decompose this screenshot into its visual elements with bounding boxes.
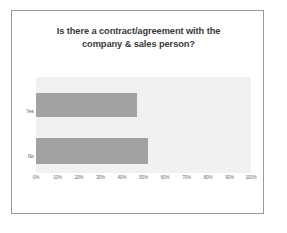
x-tick-label: 0% [33, 175, 39, 180]
x-tick-label: 10% [53, 175, 62, 180]
x-tick-label: 60% [161, 175, 170, 180]
bar-yes [36, 93, 137, 117]
x-axis-tick-labels: 0%10%20%30%40%50%60%70%80%90%100% [36, 175, 251, 189]
category-label-yes: Yes [14, 109, 34, 114]
x-tick-label: 30% [96, 175, 105, 180]
x-tick-label: 100% [245, 175, 256, 180]
x-tick-label: 50% [139, 175, 148, 180]
x-tick-label: 90% [225, 175, 234, 180]
slide-frame: Is there a contract/agreement with the c… [11, 10, 264, 214]
chart-plot-wrapper: Yes No 0%10%20%30%40%50%60%70%80%90%100% [12, 11, 265, 215]
x-tick-label: 70% [182, 175, 191, 180]
x-tick-label: 40% [118, 175, 127, 180]
bar-no [36, 138, 148, 164]
x-tick-label: 20% [75, 175, 84, 180]
category-label-no: No [14, 154, 34, 159]
x-tick-label: 80% [204, 175, 213, 180]
